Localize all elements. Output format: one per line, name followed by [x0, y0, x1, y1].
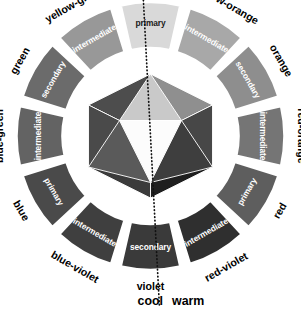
segment-role-label-red-orange: intermediate [258, 112, 268, 161]
outer-color-label-blue: blue [11, 198, 32, 223]
warm-label: warm [171, 294, 204, 308]
color-wheel-svg: primaryintermediatesecondaryintermediate… [0, 0, 301, 313]
segment-role-label-yellow: primary [135, 18, 165, 28]
outer-color-label-orange: orange [267, 42, 295, 79]
outer-color-label-red: red [270, 200, 289, 220]
cool-label: cool [138, 294, 163, 308]
outer-color-label-violet: violet [137, 280, 165, 292]
cool-warm-labels: coolwarm [138, 294, 205, 308]
outer-color-label-green: green [7, 45, 32, 76]
color-wheel-diagram: primaryintermediatesecondaryintermediate… [0, 0, 301, 313]
outer-color-label-red-orange: red-orange [296, 108, 301, 163]
segment-role-label-blue-green: intermediate [33, 111, 43, 160]
segment-role-label-violet: secondary [130, 242, 171, 252]
outer-color-label-blue-green: blue-green [0, 109, 5, 163]
